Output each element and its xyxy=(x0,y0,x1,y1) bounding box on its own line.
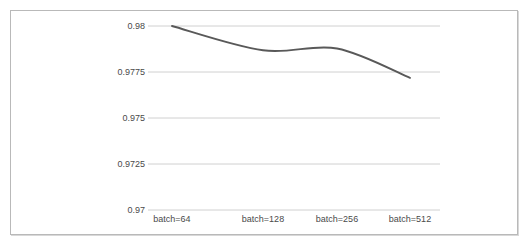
x-axis-tick-label: batch=64 xyxy=(132,214,212,224)
x-axis-tick-label: batch=128 xyxy=(223,214,303,224)
line-chart: 0.98 0.9775 0.975 0.9725 0.97 batch=64 b… xyxy=(0,0,530,247)
x-axis-tick-label: batch=256 xyxy=(297,214,377,224)
data-series-line xyxy=(172,26,410,78)
x-axis-tick-label: batch=512 xyxy=(370,214,450,224)
plot-canvas xyxy=(0,0,530,247)
gridlines xyxy=(148,26,440,210)
